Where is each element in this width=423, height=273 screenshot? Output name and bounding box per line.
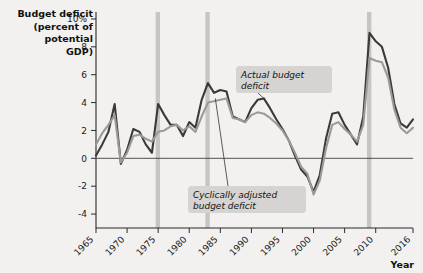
annotation-actual-budget-deficit: Actual budgetdeficit	[236, 66, 332, 98]
x-tick-label-1970: 1970	[103, 234, 126, 257]
x-tick-label-1990: 1990	[228, 234, 251, 257]
data-series-group	[96, 33, 413, 195]
annotation-text-line-1: Actual budget	[240, 70, 305, 80]
y-axis-title-line-4: GDP)	[66, 46, 93, 57]
y-tick-label-4: 4	[81, 98, 87, 108]
budget-deficit-chart: 10%86420-2-41965197019751980198519901995…	[0, 0, 423, 273]
y-axis-title-line-3: potential	[44, 33, 93, 44]
y-tick-label-2: 2	[81, 126, 87, 136]
annotation-leader-line-2	[215, 98, 228, 186]
annotation-text-line-2: deficit	[241, 81, 270, 91]
x-tick-label-1965: 1965	[72, 234, 95, 257]
y-tick-label--4: -4	[78, 209, 87, 219]
y-axis-title-line-2: (percent of	[33, 21, 93, 32]
y-axis-title: Budget deficit (percent of potential GDP…	[17, 8, 93, 57]
x-tick-label-1995: 1995	[259, 234, 282, 257]
x-tick-label-1985: 1985	[196, 234, 219, 257]
x-tick-label-2005: 2005	[321, 234, 344, 257]
annotation-text-line-1: Cyclically adjusted	[193, 190, 277, 200]
annotation-text-line-2: budget deficit	[193, 201, 256, 211]
y-axis-title-line-1: Budget deficit	[17, 8, 93, 19]
x-tick-label-2010: 2010	[352, 234, 375, 257]
x-tick-label-2000: 2000	[290, 234, 313, 257]
y-tick-label-0: 0	[81, 154, 87, 164]
y-tick-label-6: 6	[81, 70, 87, 80]
x-tick-label-2016: 2016	[389, 234, 412, 257]
x-tick-label-1980: 1980	[165, 234, 188, 257]
y-tick-label--2: -2	[78, 181, 87, 191]
annotation-leader-line-1	[258, 93, 264, 98]
x-axis-title: Year	[389, 259, 414, 270]
x-tick-label-1975: 1975	[134, 234, 157, 257]
